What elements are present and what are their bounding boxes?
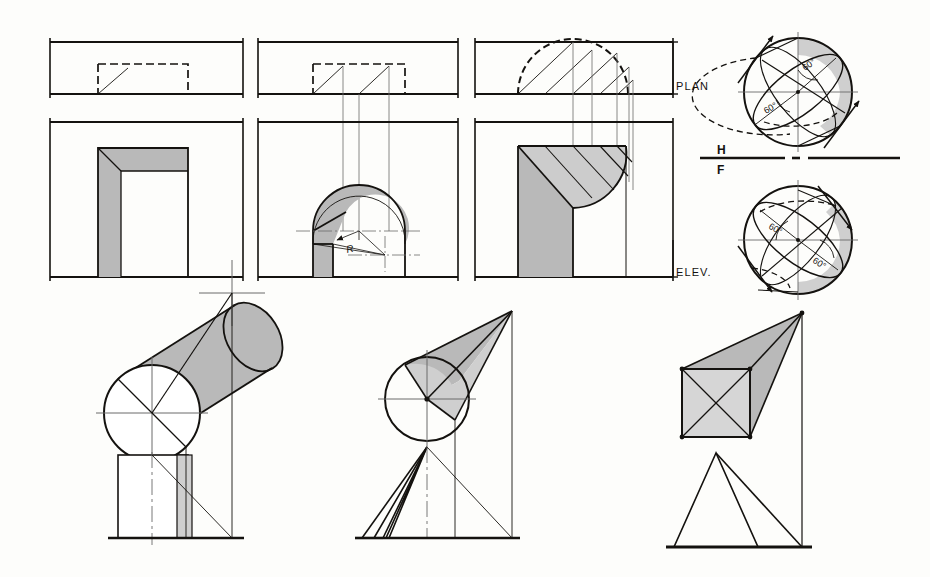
- sphere-elev-centre: [796, 238, 800, 242]
- cone-apex-dot: [424, 396, 429, 401]
- technical-drawing-plate: R: [0, 0, 930, 577]
- cylinder-base-shadow-strip: [177, 455, 192, 538]
- sphere-plan-centre: [796, 90, 800, 94]
